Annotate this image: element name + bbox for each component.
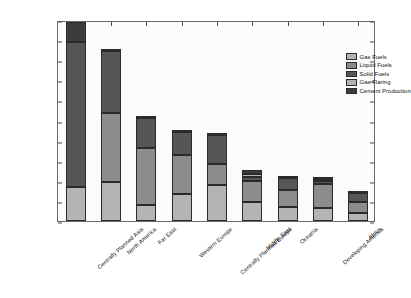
legend-swatch-icon bbox=[346, 88, 357, 95]
bar-segment[interactable] bbox=[242, 177, 262, 181]
legend-label: Gas Fuels bbox=[360, 54, 387, 60]
legend-item[interactable]: Cement Production bbox=[346, 87, 411, 94]
bar-segment[interactable] bbox=[313, 184, 333, 208]
bar-segment[interactable] bbox=[172, 194, 192, 221]
bar-segment[interactable] bbox=[101, 182, 121, 221]
y-tick-mark bbox=[370, 42, 374, 43]
bar-segment[interactable] bbox=[313, 208, 333, 221]
bar-group[interactable] bbox=[207, 20, 227, 221]
bar-group[interactable] bbox=[172, 20, 192, 221]
bar-segment[interactable] bbox=[313, 181, 333, 185]
y-tick-mark bbox=[58, 102, 62, 103]
y-tick-mark bbox=[58, 142, 62, 143]
y-tick-mark bbox=[58, 162, 62, 163]
bar-group[interactable] bbox=[242, 20, 262, 221]
y-tick-mark bbox=[58, 22, 62, 23]
bar-segment[interactable] bbox=[207, 185, 227, 221]
bar-segment[interactable] bbox=[207, 135, 227, 164]
legend-label: Solid Fuels bbox=[360, 71, 390, 77]
legend-item[interactable]: Liquid Fuels bbox=[346, 62, 411, 69]
bar-segment[interactable] bbox=[242, 170, 262, 174]
bar-group[interactable] bbox=[136, 20, 156, 221]
legend-label: Cement Production bbox=[360, 88, 411, 94]
bar-segment[interactable] bbox=[136, 205, 156, 221]
legend-item[interactable]: Solid Fuels bbox=[346, 70, 411, 77]
bar-segment[interactable] bbox=[101, 49, 121, 51]
legend-item[interactable]: Gas Flaring bbox=[346, 79, 411, 86]
bar-segment[interactable] bbox=[348, 213, 368, 221]
y-tick-mark bbox=[370, 102, 374, 103]
bar-segment[interactable] bbox=[242, 202, 262, 221]
bar-segment[interactable] bbox=[207, 133, 227, 135]
bar-group[interactable] bbox=[278, 20, 298, 221]
x-category-label: Far East bbox=[157, 226, 178, 245]
bar-segment[interactable] bbox=[242, 174, 262, 178]
legend-swatch-icon bbox=[346, 62, 357, 69]
bar-segment[interactable] bbox=[136, 148, 156, 205]
chart-legend: Gas FuelsLiquid FuelsSolid FuelsGas Flar… bbox=[346, 53, 411, 95]
y-tick-mark bbox=[58, 182, 62, 183]
y-tick-mark bbox=[58, 223, 62, 224]
bar-segment[interactable] bbox=[136, 116, 156, 118]
bar-group[interactable] bbox=[101, 20, 121, 221]
x-category-label: Western Europe bbox=[198, 226, 234, 259]
bar-segment[interactable] bbox=[172, 155, 192, 194]
bar-segment[interactable] bbox=[172, 132, 192, 155]
legend-swatch-icon bbox=[346, 79, 357, 86]
legend-label: Liquid Fuels bbox=[360, 62, 392, 68]
y-tick-mark bbox=[58, 82, 62, 83]
bar-segment[interactable] bbox=[348, 191, 368, 193]
bar-segment[interactable] bbox=[348, 193, 368, 203]
x-category-label: Oceania bbox=[298, 226, 318, 245]
plot-area: 0200400600800100012001400160018002000 Ga… bbox=[57, 21, 375, 222]
y-tick-mark bbox=[370, 142, 374, 143]
bar-segment[interactable] bbox=[101, 113, 121, 181]
y-tick-mark bbox=[370, 22, 374, 23]
bar-segment[interactable] bbox=[66, 42, 86, 187]
bar-segment[interactable] bbox=[66, 187, 86, 221]
bar-segment[interactable] bbox=[136, 118, 156, 148]
y-tick-mark bbox=[58, 202, 62, 203]
bar-group[interactable] bbox=[348, 20, 368, 221]
bar-segment[interactable] bbox=[278, 178, 298, 190]
bar-segment[interactable] bbox=[207, 164, 227, 185]
bar-segment[interactable] bbox=[313, 177, 333, 180]
bar-group[interactable] bbox=[313, 20, 333, 221]
bar-segment[interactable] bbox=[278, 176, 298, 178]
y-tick-mark bbox=[370, 202, 374, 203]
y-tick-mark bbox=[370, 223, 374, 224]
legend-label: Gas Flaring bbox=[360, 79, 391, 85]
y-tick-mark bbox=[58, 62, 62, 63]
y-tick-mark bbox=[58, 122, 62, 123]
y-tick-mark bbox=[370, 122, 374, 123]
bar-segment[interactable] bbox=[278, 190, 298, 208]
bar-segment[interactable] bbox=[66, 22, 86, 42]
bar-segment[interactable] bbox=[172, 130, 192, 132]
x-category-label: Middle East bbox=[265, 226, 292, 251]
y-tick-mark bbox=[58, 42, 62, 43]
y-tick-mark bbox=[370, 162, 374, 163]
bar-segment[interactable] bbox=[242, 181, 262, 202]
bar-group[interactable] bbox=[66, 20, 86, 221]
y-tick-mark bbox=[370, 182, 374, 183]
legend-swatch-icon bbox=[346, 71, 357, 78]
bar-segment[interactable] bbox=[278, 207, 298, 221]
legend-swatch-icon bbox=[346, 53, 357, 60]
bar-segment[interactable] bbox=[348, 202, 368, 213]
legend-item[interactable]: Gas Fuels bbox=[346, 53, 411, 60]
bar-segment[interactable] bbox=[101, 51, 121, 113]
